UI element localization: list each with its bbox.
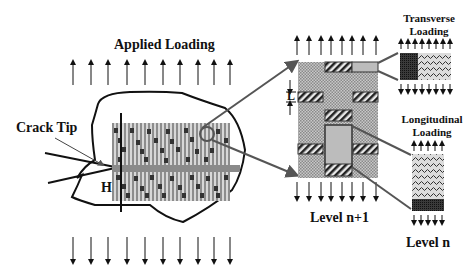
level-n1-bottom-arrows bbox=[297, 182, 376, 199]
top-load-arrows bbox=[73, 62, 230, 85]
transverse-label-line1: Transverse bbox=[396, 12, 462, 25]
longitudinal-block-dark bbox=[412, 199, 444, 211]
level-n1-label: Level n+1 bbox=[310, 210, 369, 226]
crack-tip-leader bbox=[55, 138, 103, 165]
transverse-block-dark bbox=[400, 53, 418, 80]
h-label: H bbox=[101, 180, 112, 196]
crack-tip-label: Crack Tip bbox=[16, 120, 77, 136]
transverse-top-arrows bbox=[401, 41, 450, 49]
level-n-label: Level n bbox=[406, 235, 450, 251]
longitudinal-label-line1: Longitudinal bbox=[392, 113, 471, 126]
transverse-bottom-arrows bbox=[401, 84, 450, 92]
transverse-zoom-bottom bbox=[378, 71, 398, 80]
transverse-label-line2: Loading bbox=[396, 25, 462, 38]
crack-upper-line bbox=[45, 153, 115, 167]
longitudinal-top-arrows bbox=[414, 143, 442, 151]
longitudinal-label: Longitudinal Loading bbox=[392, 113, 471, 139]
zoom-line-top bbox=[202, 62, 296, 128]
crack-plane-band bbox=[112, 165, 240, 172]
longitudinal-block-fibers bbox=[412, 154, 444, 199]
composite-region bbox=[112, 123, 230, 201]
transverse-zoom-top bbox=[378, 53, 398, 63]
bottom-load-arrows bbox=[73, 237, 230, 262]
applied-loading-label: Applied Loading bbox=[114, 37, 215, 53]
level-n1-top-arrows bbox=[297, 38, 376, 55]
longitudinal-zoom-bottom bbox=[352, 167, 411, 209]
longitudinal-label-line2: Loading bbox=[392, 126, 471, 139]
transverse-label: Transverse Loading bbox=[396, 12, 462, 38]
longitudinal-bottom-arrows bbox=[414, 215, 442, 223]
l-label: L bbox=[287, 89, 295, 104]
transverse-block-fibers bbox=[418, 53, 451, 80]
